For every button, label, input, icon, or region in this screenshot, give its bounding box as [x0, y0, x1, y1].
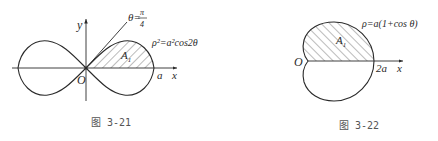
angle-label: θ= — [128, 11, 141, 23]
figure-caption: 图 3-21 — [91, 117, 131, 128]
x-intercept-label: 2a — [376, 62, 388, 74]
x-axis-label: x — [171, 69, 177, 81]
curve-equation-label: ρ=a(1+cos θ) — [361, 18, 418, 30]
x-axis-label: x — [396, 62, 402, 74]
angle-fraction-numerator: π — [140, 8, 145, 17]
y-axis-label: y — [76, 18, 83, 32]
figure-3-22: O 2a x A1 ρ=a(1+cos θ) 图 3-22 — [294, 18, 418, 131]
x-intercept-label: a — [157, 69, 163, 81]
figures-canvas: y O a x A1 θ= π 4 ρ²=a²cos2θ 图 3-21 O 2a… — [0, 0, 438, 141]
angle-fraction-denominator: 4 — [140, 20, 144, 29]
figure-3-21: y O a x A1 θ= π 4 ρ²=a²cos2θ 图 3-21 — [12, 8, 198, 128]
shaded-region-a1 — [86, 41, 154, 68]
curve-equation-label: ρ²=a²cos2θ — [151, 37, 198, 48]
origin-label: O — [294, 55, 303, 69]
origin-dot — [84, 66, 87, 69]
figure-caption: 图 3-22 — [339, 120, 379, 131]
origin-label: O — [77, 73, 86, 87]
